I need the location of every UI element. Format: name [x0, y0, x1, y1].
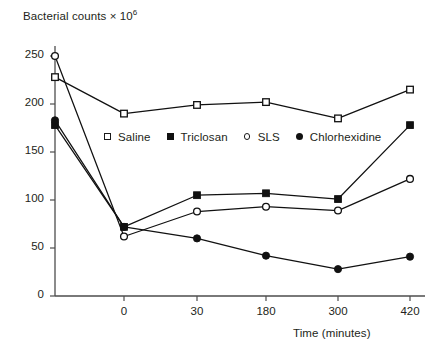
y-axis-tick-label: 150: [14, 144, 44, 156]
x-axis-tick-label: 420: [390, 305, 430, 317]
series-marker: [52, 53, 59, 60]
legend-item-saline: Saline: [101, 130, 151, 143]
y-axis-tick-label: 0: [14, 288, 44, 300]
legend-item-chlorhexidine: Chlorhexidine: [293, 130, 382, 143]
axes: [50, 46, 425, 301]
chart-legend: SalineTriclosanSLSChlorhexidine: [101, 130, 381, 143]
series-line: [55, 56, 410, 236]
series-marker: [194, 208, 201, 215]
legend-marker-shape: [167, 133, 174, 140]
series-marker: [263, 99, 270, 106]
series-marker: [334, 266, 341, 273]
data-series: [52, 74, 414, 122]
filled-circle-icon: [293, 130, 306, 143]
data-series: [52, 53, 414, 240]
series-marker: [120, 223, 127, 230]
series-marker: [52, 74, 59, 81]
series-marker: [407, 86, 414, 93]
series-marker: [51, 117, 58, 124]
y-axis-tick-label: 100: [14, 192, 44, 204]
series-marker: [335, 196, 342, 203]
open-square-icon: [101, 130, 114, 143]
x-axis-tick-label: 180: [246, 305, 286, 317]
legend-item-label: Triclosan: [181, 131, 228, 143]
chart-figure: Bacterial counts × 106 Time (minutes) 05…: [0, 0, 436, 357]
series-marker: [194, 102, 201, 109]
x-axis-tick-label: 0: [104, 305, 144, 317]
series-marker: [121, 110, 128, 117]
y-axis-ticks: [50, 56, 55, 296]
series-marker: [263, 203, 270, 210]
x-axis-tick-label: 300: [318, 305, 358, 317]
data-series-group: [51, 53, 413, 273]
series-marker: [262, 252, 269, 259]
plot-area: [0, 0, 436, 357]
series-marker: [121, 233, 128, 240]
legend-marker-shape: [244, 133, 251, 140]
series-marker: [406, 253, 413, 260]
legend-item-label: Chlorhexidine: [310, 131, 382, 143]
series-marker: [407, 122, 414, 129]
legend-marker-shape: [296, 133, 303, 140]
filled-square-icon: [164, 130, 177, 143]
series-marker: [407, 175, 414, 182]
series-marker: [263, 190, 270, 197]
series-line: [55, 77, 410, 118]
x-axis-ticks: [124, 296, 410, 301]
legend-item-label: SLS: [258, 131, 280, 143]
open-circle-icon: [241, 130, 254, 143]
series-marker: [335, 207, 342, 214]
legend-item-triclosan: Triclosan: [164, 130, 228, 143]
series-marker: [193, 235, 200, 242]
y-axis-tick-label: 200: [14, 96, 44, 108]
y-axis-tick-label: 250: [14, 48, 44, 60]
series-marker: [194, 192, 201, 199]
series-marker: [335, 115, 342, 122]
legend-marker-shape: [104, 133, 111, 140]
legend-item-label: Saline: [118, 131, 151, 143]
legend-item-sls: SLS: [241, 130, 280, 143]
x-axis-tick-label: 30: [177, 305, 217, 317]
y-axis-tick-label: 50: [14, 240, 44, 252]
